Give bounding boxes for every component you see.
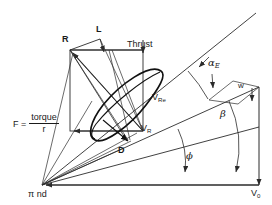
effective-relative-velocity-subscript: Re [158, 96, 166, 103]
label-lift-force: L [96, 25, 102, 34]
force-equation-fraction: torque r [29, 113, 59, 135]
force-equation-denominator: r [43, 124, 46, 134]
propeller-blade-element-diagram: R L Thrust D F = torque r π nd V0 VR VRe… [0, 0, 272, 205]
label-angle-of-attack: αE [208, 58, 220, 68]
blade-angle-arc [229, 101, 239, 172]
label-rotational-speed: π nd [28, 190, 47, 199]
airfoil-section [91, 69, 163, 141]
label-resultant-force: R [62, 35, 69, 44]
diagram-canvas [0, 0, 272, 205]
relative-velocity-subscript: R [147, 127, 151, 134]
label-blade-angle: β [220, 109, 226, 119]
force-equation-lhs: F = [13, 119, 26, 129]
freestream-velocity-subscript: 0 [257, 192, 260, 199]
angle-of-attack-subscript: E [215, 62, 220, 70]
label-drag-force: D [118, 146, 125, 155]
label-thrust-force: Thrust [127, 40, 153, 49]
force-equation-numerator: torque [29, 113, 59, 123]
angle-of-attack-symbol: α [208, 57, 215, 68]
label-relative-velocity: VR [141, 124, 151, 133]
inflow-angle-arc [178, 129, 186, 172]
tangential-force-equation: F = torque r [13, 113, 59, 135]
label-effective-relative-velocity: VRe [152, 93, 166, 102]
velocity-triangle-closure [209, 81, 259, 104]
label-freestream-velocity: V0 [251, 189, 260, 198]
label-induced-velocity: w [238, 82, 244, 90]
label-inflow-angle: ϕ [186, 151, 193, 161]
